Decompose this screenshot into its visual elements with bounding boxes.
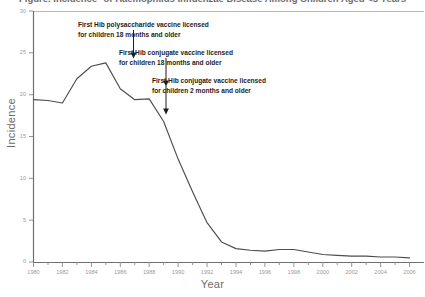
xtick-label-2006: 2006 [397,269,423,275]
annotation-3-line-1: First Hib conjugate vaccine licensed [152,76,266,86]
xtick-label-1982: 1982 [49,269,75,275]
annotation-1-line-1: First Hib polysaccharide vaccine license… [78,20,209,30]
xtick-label-1996: 1996 [252,269,278,275]
ytick-label-10: 10 [10,175,26,181]
xtick-label-1998: 1998 [281,269,307,275]
xtick-label-1988: 1988 [136,269,162,275]
annotation-2-line-2: for children 18 months and older [119,58,233,68]
ytick-label-30: 30 [10,8,26,14]
annotation-2: First Hib conjugate vaccine licensed for… [119,48,233,67]
xtick-label-1986: 1986 [107,269,133,275]
ytick-label-0: 0 [10,258,26,264]
annotation-1-line-2: for children 18 months and older [78,30,209,40]
annotation-arrows [131,30,169,115]
annotation-2-line-1: First Hib conjugate vaccine licensed [119,48,233,58]
y-axis-title: Incidence [5,83,17,163]
chart-plot-area [0,0,425,297]
xtick-label-1992: 1992 [194,269,220,275]
xtick-label-1980: 1980 [21,269,47,275]
annotation-3: First Hib conjugate vaccine licensed for… [152,76,266,95]
annotation-3-line-2: for children 2 months and older [152,86,266,96]
xtick-label-1984: 1984 [78,269,104,275]
annotation-1: First Hib polysaccharide vaccine license… [78,20,209,39]
xtick-label-2000: 2000 [310,269,336,275]
ytick-label-5: 5 [10,217,26,223]
y-tick-marks [29,11,33,262]
x-axis-title: Year [0,278,425,290]
xtick-label-2004: 2004 [368,269,394,275]
chart-figure: Figure. Incidence* of Haemophilus influe… [0,0,425,297]
xtick-label-1994: 1994 [223,269,249,275]
xtick-label-1990: 1990 [165,269,191,275]
ytick-label-25: 25 [10,49,26,55]
xtick-label-2002: 2002 [339,269,365,275]
